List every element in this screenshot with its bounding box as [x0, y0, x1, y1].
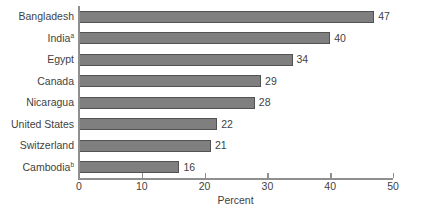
- bar-nicaragua: [79, 97, 255, 109]
- category-label-india: Indiaa: [0, 33, 74, 44]
- bar-value-label: 34: [297, 54, 309, 65]
- bar-canada: [79, 75, 261, 87]
- bar-row: Nicaragua28: [0, 92, 423, 114]
- bar-switzerland: [79, 140, 211, 152]
- bar-value-label: 22: [221, 119, 233, 130]
- bar-row: Indiaa40: [0, 28, 423, 50]
- bar-row: Cambodiab16: [0, 157, 423, 179]
- bar-row: Bangladesh47: [0, 6, 423, 28]
- bar-value-label: 29: [265, 76, 277, 87]
- bar-value-label: 47: [378, 11, 390, 22]
- x-tick: [142, 173, 143, 178]
- x-tick-label: 10: [136, 181, 148, 192]
- x-tick-label: 30: [262, 181, 274, 192]
- x-tick: [330, 173, 331, 178]
- x-tick-label: 40: [324, 181, 336, 192]
- x-tick: [267, 173, 268, 178]
- bar-cambodia: [79, 161, 179, 173]
- footnote-marker: b: [70, 160, 74, 167]
- category-label-egypt: Egypt: [0, 54, 74, 65]
- bar-value-label: 28: [259, 97, 271, 108]
- x-tick-label: 0: [76, 181, 82, 192]
- bar-united-states: [79, 118, 217, 130]
- bar-chart: Bangladesh47Indiaa40Egypt34Canada29Nicar…: [0, 0, 423, 215]
- bar-value-label: 16: [183, 162, 195, 173]
- category-label-cambodia: Cambodiab: [0, 162, 74, 173]
- x-tick: [79, 173, 80, 178]
- bar-india: [79, 32, 330, 44]
- category-label-bangladesh: Bangladesh: [0, 11, 74, 22]
- bar-row: Canada29: [0, 71, 423, 93]
- bar-value-label: 21: [215, 140, 227, 151]
- x-axis-line: [78, 178, 393, 180]
- category-label-nicaragua: Nicaragua: [0, 97, 74, 108]
- bar-bangladesh: [79, 11, 374, 23]
- x-tick: [205, 173, 206, 178]
- bar-row: Switzerland21: [0, 135, 423, 157]
- bar-egypt: [79, 54, 293, 66]
- category-label-canada: Canada: [0, 76, 74, 87]
- chart-rows: Bangladesh47Indiaa40Egypt34Canada29Nicar…: [0, 0, 423, 172]
- bar-row: Egypt34: [0, 49, 423, 71]
- category-label-switzerland: Switzerland: [0, 140, 74, 151]
- y-axis-line: [78, 6, 80, 178]
- bar-row: United States22: [0, 114, 423, 136]
- x-axis-title: Percent: [78, 195, 393, 206]
- footnote-marker: a: [70, 31, 74, 38]
- x-tick: [393, 173, 394, 178]
- x-tick-label: 20: [199, 181, 211, 192]
- x-tick-label: 50: [387, 181, 399, 192]
- bar-value-label: 40: [334, 33, 346, 44]
- category-label-united-states: United States: [0, 119, 74, 130]
